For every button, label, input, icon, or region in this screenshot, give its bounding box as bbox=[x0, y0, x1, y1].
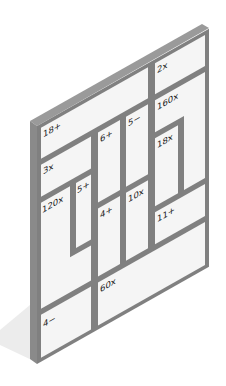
board-left-edge bbox=[30, 121, 37, 364]
kenken-board: 18+ 2x 3x 6+ 5− 160x 18x 120x 5+ 4+ 10x … bbox=[0, 0, 226, 386]
